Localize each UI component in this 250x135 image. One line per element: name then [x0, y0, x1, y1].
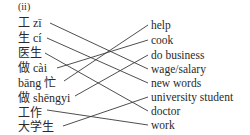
match-line	[47, 110, 148, 125]
match-lines	[0, 0, 250, 135]
match-line	[64, 25, 148, 81]
match-line	[63, 97, 148, 126]
match-line	[75, 55, 148, 96]
match-line	[57, 40, 148, 68]
